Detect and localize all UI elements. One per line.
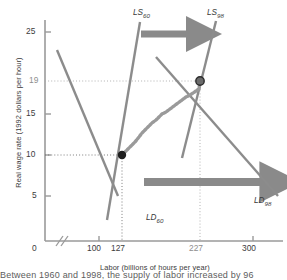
curve-label-ls60: LS60	[133, 8, 150, 19]
y-tick-label-5: 5	[32, 190, 37, 200]
y-tick-label-19: 19	[29, 75, 38, 85]
x-tick-label-227: 227	[189, 243, 203, 253]
curve-label-ld60-text: LD	[146, 213, 156, 222]
equilibrium-point-1998	[196, 77, 204, 85]
curve-label-ld98-text: LD	[254, 196, 264, 205]
y-tick-label-10: 10	[26, 149, 35, 159]
curve-label-ld98: LD98	[254, 196, 271, 207]
curve-label-ld98-sub: 98	[264, 200, 271, 207]
curve-ls60	[107, 22, 140, 220]
x-tick-label-300: 300	[242, 243, 256, 253]
curve-label-ls60-sub: 60	[143, 12, 150, 19]
figure-caption: Between 1960 and 1998, the supply of lab…	[0, 270, 287, 280]
y-tick-label-25: 25	[26, 26, 35, 36]
y-tick-label-0: 0	[32, 243, 37, 253]
curve-ld98	[156, 57, 278, 196]
equilibrium-point-1960	[118, 151, 126, 159]
curve-label-ls60-text: LS	[133, 8, 143, 17]
curve-ld60	[57, 50, 118, 196]
curve-label-ld60: LD60	[146, 213, 163, 224]
curve-label-ls98-text: LS	[207, 8, 217, 17]
y-axis-title: Real wage rate (1992 dollars per hour)	[14, 48, 23, 198]
curve-label-ld60-sub: 60	[156, 217, 163, 224]
y-tick-label-15: 15	[26, 108, 35, 118]
x-tick-label-127: 127	[111, 243, 125, 253]
curve-label-ls98: LS98	[207, 8, 224, 19]
curve-label-ls98-sub: 98	[217, 12, 224, 19]
x-tick-label-100: 100	[87, 243, 101, 253]
